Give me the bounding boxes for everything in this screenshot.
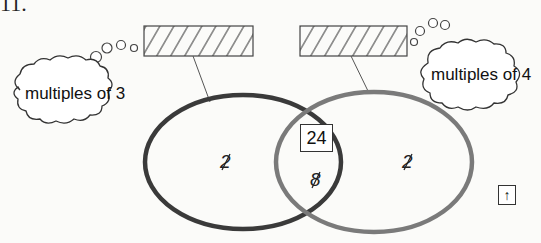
intersection-answer-box[interactable]: 24 xyxy=(300,124,333,152)
left-leader-line xyxy=(193,56,210,102)
right-leader-line xyxy=(351,56,368,91)
right-thought-dots xyxy=(411,19,450,46)
right-only-value: 2 xyxy=(402,151,413,173)
up-arrow-button[interactable]: ↑ xyxy=(498,185,516,205)
right-set-circle xyxy=(276,92,472,232)
right-set-label: multiples of 4 xyxy=(431,65,531,85)
left-set-circle xyxy=(145,95,341,229)
venn-diagram-graphics xyxy=(0,0,541,243)
left-set-label: multiples of 3 xyxy=(25,84,125,104)
venn-diagram-question: 11. xyxy=(0,0,541,243)
intersection-value: 8 xyxy=(310,169,321,191)
left-answer-box[interactable] xyxy=(144,26,253,56)
right-answer-box[interactable] xyxy=(300,26,407,56)
left-thought-dots xyxy=(91,41,138,63)
left-only-value: 2 xyxy=(220,151,231,173)
